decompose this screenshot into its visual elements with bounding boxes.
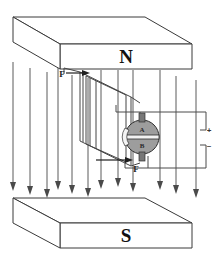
- split-ring-commutator: A B: [122, 113, 159, 161]
- field-line: [55, 66, 61, 190]
- field-line: [173, 76, 179, 194]
- south-pole-label: S: [121, 225, 132, 246]
- commutator-segment-a-label: A: [139, 126, 144, 134]
- circuit-lower-lead: [148, 145, 206, 168]
- north-pole-magnet: N: [13, 17, 192, 69]
- field-line: [193, 80, 199, 198]
- force-label-lower: F: [133, 164, 139, 174]
- brush-lower: [139, 152, 145, 161]
- positive-terminal-label: +: [207, 126, 212, 135]
- field-line: [27, 68, 33, 195]
- field-line: [98, 70, 104, 189]
- commutator-segment-b-label: B: [140, 142, 145, 150]
- negative-terminal-label: –: [207, 141, 212, 150]
- north-pole-label: N: [119, 46, 133, 67]
- magnetic-field-lines: [10, 62, 199, 198]
- supply-terminals: + –: [200, 126, 212, 150]
- figure-canvas: N: [0, 0, 221, 263]
- south-pole-magnet: S: [13, 198, 192, 248]
- current-loop: [64, 68, 140, 166]
- coil-loop-inner: [86, 76, 126, 162]
- field-line: [115, 70, 121, 187]
- brush-upper: [139, 113, 145, 122]
- field-line: [69, 75, 75, 194]
- field-line: [44, 72, 50, 198]
- motor-principle-figure: N: [0, 0, 221, 263]
- force-label-upper: F: [59, 69, 65, 79]
- field-line: [10, 62, 16, 191]
- commutator-split-gap: [125, 135, 159, 139]
